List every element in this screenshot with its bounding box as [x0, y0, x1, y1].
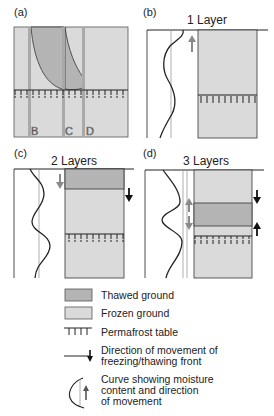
- legend-frozen-label: Frozen ground: [101, 308, 169, 319]
- legend-thawed-label: Thawed ground: [101, 290, 174, 301]
- legend-front-label-2: freezing/thawing front: [101, 356, 201, 367]
- legend: Thawed ground Frozen ground Permafrost t…: [0, 0, 274, 416]
- legend-permafrost-label: Permafrost table: [101, 327, 178, 338]
- legend-curve-label-3: of movement: [101, 396, 162, 407]
